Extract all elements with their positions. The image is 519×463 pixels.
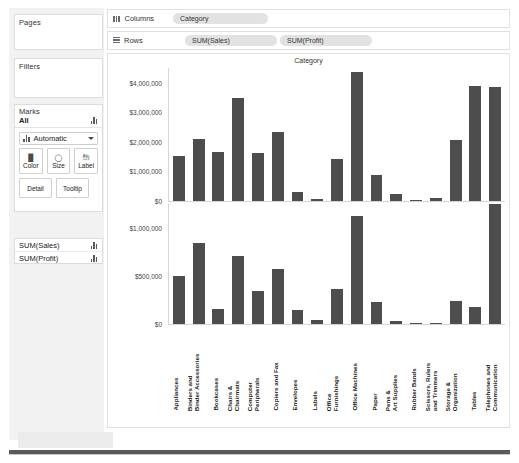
- category-tick-label[interactable]: Chairs & Chairmats: [227, 381, 240, 411]
- detail-button-label: Detail: [27, 185, 44, 192]
- profit-y-axis: $0$500,000$1,000,000Profit: [108, 204, 166, 324]
- rows-shelf-label: Rows: [108, 36, 170, 45]
- bar[interactable]: [410, 323, 422, 324]
- category-tick-label[interactable]: Scissors, Rulers and Trimmers: [425, 363, 438, 412]
- bar[interactable]: [252, 153, 264, 201]
- marks-card[interactable]: Marks All Automatic █ Color ◯ Size: [14, 104, 103, 212]
- pill-sum-sales[interactable]: SUM(Sales): [185, 35, 277, 46]
- bar[interactable]: [430, 323, 442, 324]
- left-panel: Pages Filters Marks All Automatic █ Colo…: [9, 8, 104, 440]
- bar[interactable]: [469, 86, 481, 201]
- bar[interactable]: [430, 198, 442, 201]
- palette-icon: █: [28, 153, 33, 161]
- measure-item-sales[interactable]: SUM(Sales): [15, 239, 102, 252]
- bar[interactable]: [232, 256, 244, 324]
- category-tick-label[interactable]: Tables: [471, 392, 478, 411]
- rows-icon: [113, 37, 120, 44]
- bar[interactable]: [469, 307, 481, 324]
- rows-shelf[interactable]: Rows SUM(Sales) SUM(Profit): [107, 31, 510, 50]
- bar[interactable]: [252, 291, 264, 324]
- bar[interactable]: [272, 132, 284, 201]
- category-tick-label[interactable]: Rubber Bands: [412, 369, 419, 411]
- bar[interactable]: [371, 302, 383, 324]
- columns-shelf[interactable]: Columns Category: [107, 9, 510, 28]
- bar[interactable]: [450, 140, 462, 201]
- profit-chart-pane: [168, 204, 505, 325]
- rows-shelf-text: Rows: [124, 36, 143, 45]
- mark-type-label: Automatic: [34, 134, 89, 143]
- color-button[interactable]: █ Color: [19, 148, 43, 174]
- category-tick-label[interactable]: Computer Peripherals: [247, 377, 260, 411]
- category-tick-label[interactable]: Binders and Binder Accessories: [187, 353, 200, 411]
- bar[interactable]: [292, 310, 304, 324]
- bar[interactable]: [311, 199, 323, 201]
- tooltip-button[interactable]: Tooltip: [56, 178, 89, 198]
- bar[interactable]: [173, 276, 185, 324]
- columns-shelf-label: Columns: [108, 14, 170, 23]
- filters-card[interactable]: Filters: [14, 58, 103, 98]
- bar[interactable]: [272, 269, 284, 324]
- bar-chart-icon: [91, 117, 99, 124]
- pages-card[interactable]: Pages: [14, 14, 103, 50]
- label-button-label: Label: [78, 162, 94, 169]
- bar[interactable]: [292, 192, 304, 201]
- bar[interactable]: [450, 301, 462, 324]
- mark-type-dropdown[interactable]: Automatic: [19, 132, 98, 145]
- measure-item-profit[interactable]: SUM(Profit): [15, 252, 102, 264]
- columns-shelf-text: Columns: [125, 14, 155, 23]
- category-tick-label[interactable]: Envelopes: [293, 380, 300, 411]
- bar[interactable]: [390, 321, 402, 324]
- bar[interactable]: [193, 139, 205, 201]
- bar[interactable]: [232, 98, 244, 201]
- column-header-category: Category: [108, 54, 509, 67]
- bar[interactable]: [331, 289, 343, 324]
- label-button[interactable]: Abc 123 Label: [74, 148, 98, 174]
- visualization-area: Category $0$1,000,000$2,000,000$3,000,00…: [107, 53, 510, 428]
- measures-card: SUM(Sales) SUM(Profit): [14, 238, 103, 264]
- bar[interactable]: [410, 200, 422, 201]
- bar[interactable]: [193, 243, 205, 324]
- category-tick-label[interactable]: Telephones and Communication: [484, 364, 497, 411]
- marks-all-row[interactable]: All: [15, 116, 102, 128]
- category-tick-label[interactable]: Storage & Organization: [445, 373, 458, 411]
- bar[interactable]: [371, 175, 383, 201]
- pill-sum-profit[interactable]: SUM(Profit): [280, 35, 372, 46]
- bar[interactable]: [212, 152, 224, 201]
- category-tick-label[interactable]: Office Furnishings: [326, 376, 339, 411]
- bar[interactable]: [331, 159, 343, 201]
- category-tick-label[interactable]: Office Machines: [352, 364, 359, 411]
- bar[interactable]: [351, 216, 363, 324]
- bar[interactable]: [212, 309, 224, 324]
- detail-button[interactable]: Detail: [19, 178, 52, 198]
- bar[interactable]: [351, 72, 363, 201]
- bar[interactable]: [390, 194, 402, 201]
- left-panel-bottom-strip: [18, 432, 113, 448]
- 123-text: 123: [83, 156, 90, 161]
- category-tick-label[interactable]: Pens & Art Supplies: [385, 375, 398, 411]
- bar[interactable]: [173, 156, 185, 201]
- category-tick-label[interactable]: Labels: [313, 391, 320, 411]
- mark-buttons-row-2: Detail Tooltip: [15, 178, 102, 198]
- size-icon: ◯: [55, 153, 63, 161]
- measure-item-profit-label: SUM(Profit): [19, 254, 58, 263]
- filters-card-title: Filters: [15, 59, 102, 71]
- marks-all-label: All: [19, 116, 29, 125]
- measure-item-sales-label: SUM(Sales): [19, 241, 59, 250]
- tooltip-button-label: Tooltip: [63, 185, 82, 192]
- bar[interactable]: [489, 87, 501, 201]
- pill-category[interactable]: Category: [173, 13, 268, 24]
- category-tick-label[interactable]: Appliances: [174, 378, 181, 411]
- category-axis-labels: AppliancesBinders and Binder Accessories…: [168, 325, 505, 413]
- bar[interactable]: [489, 204, 501, 324]
- mark-buttons-row-1: █ Color ◯ Size Abc 123 Label: [15, 148, 102, 174]
- category-tick-label[interactable]: Copiers and Fax: [273, 363, 280, 411]
- bar[interactable]: [311, 320, 323, 324]
- color-button-label: Color: [23, 162, 39, 169]
- bar-chart-icon: [91, 255, 99, 262]
- category-tick-label[interactable]: Bookcases: [213, 378, 220, 411]
- marks-card-title: Marks: [19, 107, 40, 116]
- size-button[interactable]: ◯ Size: [47, 148, 71, 174]
- sales-y-axis: $0$1,000,000$2,000,000$3,000,000$4,000,0…: [108, 68, 166, 201]
- chevron-down-icon[interactable]: [88, 137, 94, 140]
- category-tick-label[interactable]: Paper: [372, 394, 379, 411]
